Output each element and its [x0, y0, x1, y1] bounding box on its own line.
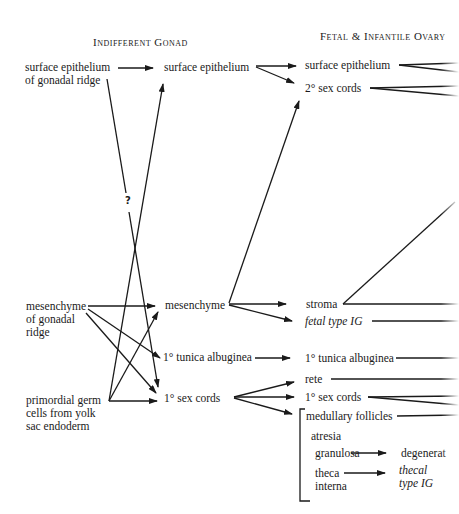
- node-line: of gonadal ridge: [25, 74, 110, 87]
- node-primordial-germ-cells: primordial germ cells from yolk sac endo…: [26, 394, 101, 433]
- node-sex-cords: 1° sex cords: [164, 392, 220, 405]
- node-surface-epithelium-ridge: surface epithelium of gonadal ridge: [25, 61, 110, 87]
- node-stroma: stroma: [306, 298, 337, 311]
- node-medullary-follicles: medullary follicles: [306, 410, 393, 423]
- node-line: thecal: [399, 464, 433, 477]
- node-fetal-type-ig: fetal type IG: [305, 315, 362, 328]
- node-line: theca: [315, 467, 347, 480]
- node-ovary-tunica-albuginea: 1° tunica albuginea: [305, 352, 394, 365]
- node-ovary-surface-epithelium: surface epithelium: [305, 59, 390, 72]
- node-line: cells from yolk: [26, 407, 101, 420]
- node-surface-epithelium: surface epithelium: [164, 61, 249, 74]
- node-atresia: atresia: [311, 430, 341, 443]
- node-line: of gonadal: [26, 313, 86, 326]
- node-tunica-albuginea: 1° tunica albuginea: [163, 351, 252, 364]
- page-edge-fade: [441, 0, 459, 514]
- node-thecal-type-ig: thecal type IG: [399, 464, 433, 490]
- node-rete: rete: [305, 373, 322, 386]
- node-line: mesenchyme: [26, 300, 86, 313]
- node-line: surface epithelium: [25, 61, 110, 74]
- node-line: type IG: [399, 477, 433, 490]
- question-mark-annotation: ?: [124, 195, 132, 206]
- node-theca-interna: theca interna: [315, 467, 347, 493]
- node-mesenchyme: mesenchyme: [165, 299, 225, 312]
- node-degenerate: degenerat: [401, 447, 446, 460]
- header-fetal-infantile-ovary: Fetal & Infantile Ovary: [320, 30, 446, 42]
- node-ovary-sex-cords: 1° sex cords: [305, 391, 361, 404]
- node-granulosa: granulosa: [315, 447, 360, 460]
- node-mesenchyme-ridge: mesenchyme of gonadal ridge: [26, 300, 86, 339]
- node-line: ridge: [26, 326, 86, 339]
- node-line: sac endoderm: [26, 420, 101, 433]
- header-indifferent-gonad: Indifferent Gonad: [93, 36, 188, 48]
- node-line: interna: [315, 480, 347, 493]
- node-line: primordial germ: [26, 394, 101, 407]
- node-secondary-sex-cords: 2° sex cords: [305, 82, 361, 95]
